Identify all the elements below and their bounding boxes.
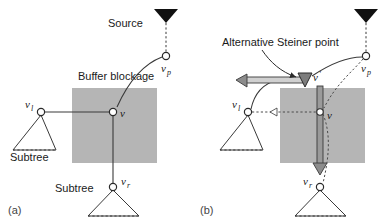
node-label-vr-b-base: v	[303, 175, 308, 187]
panel-label-a: (a)	[8, 204, 21, 216]
node-vr-a	[109, 183, 116, 190]
subtree-left-triangle-b	[220, 115, 263, 150]
node-label-vp-b-sub: p	[366, 68, 371, 77]
node-label-vl-b-sub: l	[238, 104, 241, 113]
subtree-left-label-a: Subtree	[10, 151, 49, 163]
node-label-vr-a-base: v	[121, 175, 126, 187]
node-label-v-a-base: v	[120, 107, 125, 119]
diagram-canvas: Source Buffer blockage Subtree Subtree v…	[0, 0, 388, 224]
panel-b: Alternative Steiner point v p v ' v v l …	[200, 9, 378, 216]
node-label-vprime-b: v '	[313, 70, 321, 83]
alt-steiner-label-b: Alternative Steiner point	[222, 36, 339, 48]
alt-steiner-leader-b	[262, 50, 296, 77]
node-label-v-a: v	[120, 107, 125, 119]
node-label-vl-a: v l	[25, 98, 34, 113]
subtree-left-triangle-a	[13, 115, 56, 150]
edge-vl-vprime-b	[251, 80, 277, 109]
buffer-blockage-rect-a	[72, 88, 157, 163]
node-label-vprime-b-sub: '	[319, 70, 321, 79]
node-label-vp-a: v p	[161, 62, 171, 77]
node-vl-a	[37, 108, 44, 115]
subtree-bottom-label-a: Subtree	[55, 182, 94, 194]
source-label-a: Source	[108, 17, 143, 29]
node-label-vp-a-sub: p	[166, 68, 171, 77]
node-v-b	[317, 109, 323, 115]
node-label-vr-b: v r	[303, 175, 313, 190]
node-label-vr-a: v r	[121, 175, 131, 190]
node-label-vr-b-sub: r	[309, 181, 313, 190]
panel-label-b: (b)	[200, 204, 213, 216]
source-triangle-icon-a	[154, 9, 178, 23]
node-label-vl-b-base: v	[232, 98, 237, 110]
node-label-v-b-base: v	[327, 109, 332, 121]
node-vl-b	[244, 108, 251, 115]
node-vp-b	[362, 52, 369, 59]
buffer-blockage-label-a: Buffer blockage	[78, 70, 154, 82]
subtree-bottom-triangle-b	[295, 190, 346, 216]
ghost-arrow-head-b	[270, 108, 277, 116]
node-label-vl-b: v l	[232, 98, 241, 113]
panel-a: Source Buffer blockage Subtree Subtree v…	[8, 9, 178, 216]
node-vr-b	[316, 183, 323, 190]
node-v-a	[109, 108, 116, 115]
subtree-bottom-triangle-a	[88, 190, 139, 216]
source-triangle-icon-b	[354, 9, 378, 23]
node-label-vl-a-sub: l	[31, 104, 34, 113]
node-label-vp-b-base: v	[361, 62, 366, 74]
node-label-v-b: v	[327, 109, 332, 121]
node-label-vl-a-base: v	[25, 98, 30, 110]
figure-root: Source Buffer blockage Subtree Subtree v…	[0, 0, 388, 224]
node-label-vp-a-base: v	[161, 62, 166, 74]
node-vp-a	[162, 52, 169, 59]
node-label-vr-a-sub: r	[127, 181, 131, 190]
node-label-vprime-b-base: v	[313, 71, 318, 83]
node-label-vp-b: v p	[361, 62, 371, 77]
